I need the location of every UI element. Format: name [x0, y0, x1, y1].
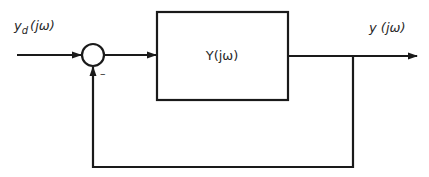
- block-diagram: yd(jω) Y(jω) y (jω) –: [0, 0, 429, 177]
- input-label: yd(jω): [13, 18, 55, 36]
- summing-junction: [82, 44, 104, 66]
- block-label: Y(jω): [205, 48, 239, 63]
- output-label: y (jω): [368, 20, 405, 35]
- minus-sign: –: [100, 67, 106, 80]
